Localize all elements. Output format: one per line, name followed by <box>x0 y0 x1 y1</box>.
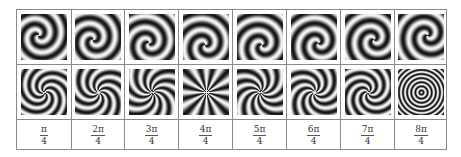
angle-fraction: π4 <box>40 125 48 146</box>
top-row-cell <box>72 10 124 64</box>
fan-pattern-image <box>237 14 283 60</box>
fraction-denominator: 4 <box>149 136 155 146</box>
angle-label-cell: 8π4 <box>395 120 447 150</box>
spiral-pattern-image <box>21 69 67 115</box>
bottom-row-cell <box>233 65 286 119</box>
angle-label-cell: 2π4 <box>72 120 124 150</box>
fan-pattern-image <box>183 14 229 60</box>
fraction-numerator: 3π <box>145 125 159 136</box>
fraction-numerator: 2π <box>91 125 105 136</box>
fan-pattern-image <box>75 14 121 60</box>
spiral-pattern-image <box>129 69 175 115</box>
fraction-denominator: 4 <box>418 136 424 146</box>
bottom-row-cell <box>341 65 394 119</box>
angle-fraction: 5π4 <box>253 125 267 146</box>
fraction-numerator: 5π <box>253 125 267 136</box>
fraction-denominator: 4 <box>311 136 317 146</box>
top-row-cell <box>179 10 232 64</box>
angle-label-cell: π4 <box>17 120 71 150</box>
bottom-row-cell <box>125 65 178 119</box>
top-row-cell <box>341 10 394 64</box>
fan-pattern-image <box>129 14 175 60</box>
top-row-cell <box>125 10 178 64</box>
top-row-cell <box>395 10 447 64</box>
angle-fraction: 2π4 <box>91 125 105 146</box>
bottom-row-cell <box>17 65 71 119</box>
spiral-pattern-image <box>237 69 283 115</box>
fraction-numerator: 4π <box>199 125 213 136</box>
fraction-denominator: 4 <box>203 136 209 146</box>
angle-label-cell: 6π4 <box>287 120 340 150</box>
fraction-denominator: 4 <box>41 136 47 146</box>
fan-pattern-image <box>345 14 391 60</box>
spiral-pattern-image <box>345 69 391 115</box>
fraction-numerator: 8π <box>414 125 428 136</box>
angle-label-cell: 5π4 <box>233 120 286 150</box>
top-row-cell <box>287 10 340 64</box>
fan-pattern-image <box>398 14 444 60</box>
angle-label-cell: 3π4 <box>125 120 178 150</box>
spiral-pattern-image <box>183 69 229 115</box>
angle-label-cell: 7π4 <box>341 120 394 150</box>
pattern-table: π42π43π44π45π46π47π48π4 <box>16 9 447 150</box>
top-row-cell <box>17 10 71 64</box>
top-row-cell <box>233 10 286 64</box>
angle-fraction: 4π4 <box>199 125 213 146</box>
spiral-pattern-image <box>291 69 337 115</box>
bottom-row-cell <box>395 65 447 119</box>
angle-fraction: 8π4 <box>414 125 428 146</box>
fraction-numerator: 6π <box>307 125 321 136</box>
bottom-row-cell <box>287 65 340 119</box>
angle-fraction: 3π4 <box>145 125 159 146</box>
fraction-numerator: π <box>40 125 48 136</box>
fan-pattern-image <box>291 14 337 60</box>
angle-fraction: 6π4 <box>307 125 321 146</box>
spiral-pattern-image <box>75 69 121 115</box>
angle-fraction: 7π4 <box>361 125 375 146</box>
fraction-denominator: 4 <box>95 136 101 146</box>
fan-pattern-image <box>21 14 67 60</box>
spiral-pattern-image <box>398 69 444 115</box>
bottom-row-cell <box>179 65 232 119</box>
angle-label-cell: 4π4 <box>179 120 232 150</box>
fraction-denominator: 4 <box>257 136 263 146</box>
fraction-numerator: 7π <box>361 125 375 136</box>
bottom-row-cell <box>72 65 124 119</box>
fraction-denominator: 4 <box>365 136 371 146</box>
